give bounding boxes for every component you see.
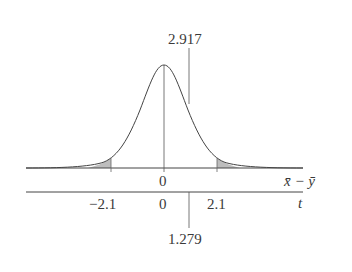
axis1-label: x̄ − ȳ <box>284 174 315 189</box>
density-curve <box>26 65 303 168</box>
axis2-tick-neg: −2.1 <box>89 197 116 212</box>
top-marker-label: 2.917 <box>168 32 202 47</box>
bottom-marker-label: 1.279 <box>168 232 202 247</box>
axis2-tick-pos: 2.1 <box>207 197 226 212</box>
axis2-label: t <box>298 196 302 211</box>
axis1-tick-0: 0 <box>159 174 167 189</box>
axis2-tick-0: 0 <box>159 197 167 212</box>
